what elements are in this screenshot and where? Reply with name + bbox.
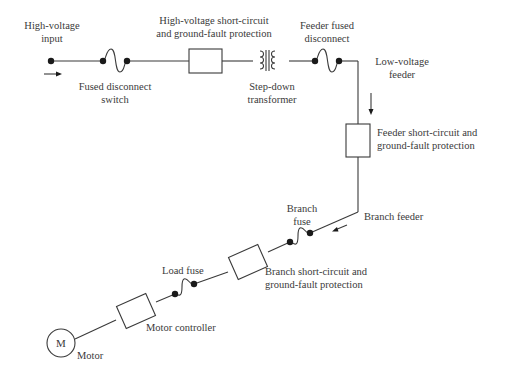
branch-feeder-label: Branch feeder xyxy=(364,211,423,224)
fused-disconnect-label: Fused disconnectswitch xyxy=(79,81,152,106)
motor-label: Motor xyxy=(77,350,103,363)
fused-disconnect-fuse-icon xyxy=(103,49,127,72)
branch-protection-box-icon xyxy=(229,245,268,280)
diagram-graphics xyxy=(0,0,505,377)
hv-input-label: High-voltageinput xyxy=(24,20,79,45)
power-distribution-diagram: High-voltageinput Fused disconnectswitch… xyxy=(0,0,505,377)
transformer-label: Step-downtransformer xyxy=(248,81,297,106)
feeder-protection-box-icon xyxy=(346,124,370,157)
load-fuse-label: Load fuse xyxy=(162,265,204,278)
branch-protection-label: Branch short-circuit andground-fault pro… xyxy=(265,266,367,291)
feeder-fuse-icon xyxy=(315,49,339,72)
feeder-fused-disconnect-label: Feeder fuseddisconnect xyxy=(300,20,354,45)
feeder-protection-label: Feeder short-circuit andground-fault pro… xyxy=(377,127,477,152)
hv-protection-box-icon xyxy=(189,49,222,73)
step-down-transformer-icon xyxy=(260,50,275,71)
motor-controller-label: Motor controller xyxy=(146,322,216,335)
motor-symbol-label: M xyxy=(56,337,66,350)
lv-feeder-label: Low-voltagefeeder xyxy=(375,56,429,81)
branch-fuse-label: Branchfuse xyxy=(287,203,317,228)
hv-protection-label: High-voltage short-circuitand ground-fau… xyxy=(156,15,271,40)
